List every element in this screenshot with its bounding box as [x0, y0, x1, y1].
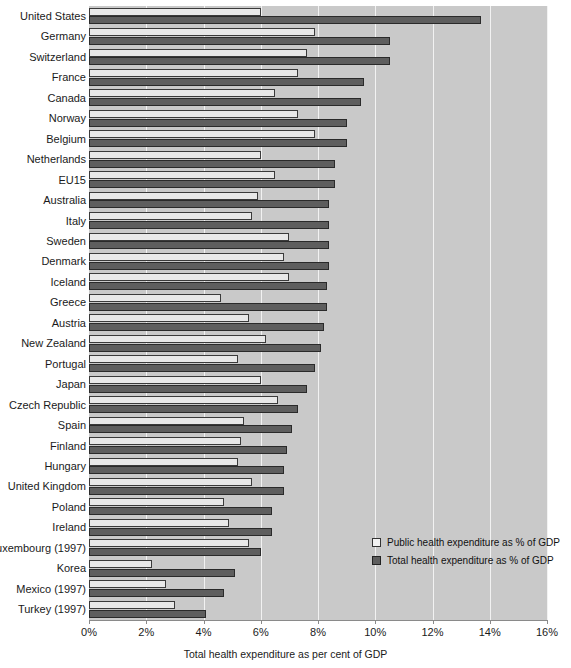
- chart-row: Greece: [0, 292, 571, 312]
- category-label: Italy: [0, 211, 86, 231]
- chart-row: United States: [0, 6, 571, 26]
- bar-total: [89, 16, 481, 24]
- bar-total: [89, 548, 261, 556]
- legend-item-public: Public health expenditure as % of GDP: [372, 537, 560, 548]
- chart-row: Sweden: [0, 231, 571, 251]
- bar-total: [89, 385, 307, 393]
- bar-public: [89, 69, 298, 77]
- category-label: Japan: [0, 374, 86, 394]
- bar-total: [89, 221, 329, 229]
- category-label: EU15: [0, 170, 86, 190]
- bar-public: [89, 458, 238, 466]
- bar-total: [89, 57, 390, 65]
- chart-row: Hungary: [0, 456, 571, 476]
- bar-public: [89, 110, 298, 118]
- bar-rows: United StatesGermanySwitzerlandFranceCan…: [0, 6, 571, 620]
- chart-container: United StatesGermanySwitzerlandFranceCan…: [0, 0, 571, 668]
- bar-total: [89, 98, 361, 106]
- bar-total: [89, 405, 298, 413]
- bar-public: [89, 294, 221, 302]
- legend-label-total: Total health expenditure as % of GDP: [387, 555, 554, 566]
- chart-row: Iceland: [0, 272, 571, 292]
- bar-public: [89, 130, 315, 138]
- bar-total: [89, 303, 327, 311]
- x-tick-label: 0%: [81, 626, 97, 638]
- bar-public: [89, 233, 289, 241]
- bar-public: [89, 28, 315, 36]
- chart-row: Italy: [0, 211, 571, 231]
- bar-total: [89, 364, 315, 372]
- category-label: Germany: [0, 26, 86, 46]
- bar-total: [89, 446, 287, 454]
- bar-total: [89, 241, 329, 249]
- x-tick-mark: [375, 620, 376, 624]
- legend-label-public: Public health expenditure as % of GDP: [387, 537, 560, 548]
- x-tick-label: 16%: [536, 626, 558, 638]
- chart-row: Japan: [0, 374, 571, 394]
- chart-row: Mexico (1997): [0, 579, 571, 599]
- category-label: Poland: [0, 497, 86, 517]
- bar-public: [89, 580, 166, 588]
- category-label: Hungary: [0, 456, 86, 476]
- bar-public: [89, 478, 252, 486]
- x-tick-label: 4%: [196, 626, 212, 638]
- bar-total: [89, 37, 390, 45]
- x-tick-label: 14%: [479, 626, 501, 638]
- x-tick-mark: [146, 620, 147, 624]
- bar-public: [89, 314, 249, 322]
- chart-row: Austria: [0, 313, 571, 333]
- chart-row: Portugal: [0, 354, 571, 374]
- bar-public: [89, 560, 152, 568]
- x-tick-mark: [547, 620, 548, 624]
- bar-total: [89, 610, 206, 618]
- bar-public: [89, 539, 249, 547]
- bar-public: [89, 171, 275, 179]
- chart-row: Switzerland: [0, 47, 571, 67]
- chart-row: Finland: [0, 436, 571, 456]
- x-tick-label: 12%: [421, 626, 443, 638]
- bar-public: [89, 417, 244, 425]
- category-label: Canada: [0, 88, 86, 108]
- chart-row: Germany: [0, 26, 571, 46]
- category-label: Czech Republic: [0, 395, 86, 415]
- bar-public: [89, 355, 238, 363]
- bar-total: [89, 160, 335, 168]
- x-tick-mark: [261, 620, 262, 624]
- category-label: Greece: [0, 292, 86, 312]
- chart-row: Belgium: [0, 129, 571, 149]
- bar-total: [89, 323, 324, 331]
- category-label: Turkey (1997): [0, 599, 86, 619]
- category-label: Portugal: [0, 354, 86, 374]
- bar-public: [89, 8, 261, 16]
- chart-row: Spain: [0, 415, 571, 435]
- bar-total: [89, 200, 329, 208]
- legend-item-total: Total health expenditure as % of GDP: [372, 555, 560, 566]
- bar-public: [89, 335, 266, 343]
- bar-public: [89, 49, 307, 57]
- x-tick-mark: [204, 620, 205, 624]
- bar-total: [89, 466, 284, 474]
- bar-public: [89, 396, 278, 404]
- bar-public: [89, 376, 261, 384]
- bar-public: [89, 519, 229, 527]
- category-label: Finland: [0, 436, 86, 456]
- bar-public: [89, 273, 289, 281]
- bar-total: [89, 344, 321, 352]
- legend-swatch-public-icon: [372, 538, 381, 547]
- bar-total: [89, 425, 292, 433]
- bar-total: [89, 282, 327, 290]
- bar-public: [89, 192, 258, 200]
- bar-public: [89, 601, 175, 609]
- bar-total: [89, 119, 347, 127]
- category-label: Ireland: [0, 517, 86, 537]
- chart-row: Czech Republic: [0, 395, 571, 415]
- category-label: Netherlands: [0, 149, 86, 169]
- bar-public: [89, 151, 261, 159]
- bar-public: [89, 437, 241, 445]
- chart-row: Ireland: [0, 517, 571, 537]
- bar-public: [89, 498, 224, 506]
- category-label: Switzerland: [0, 47, 86, 67]
- x-tick-mark: [433, 620, 434, 624]
- bar-total: [89, 262, 329, 270]
- chart-row: Netherlands: [0, 149, 571, 169]
